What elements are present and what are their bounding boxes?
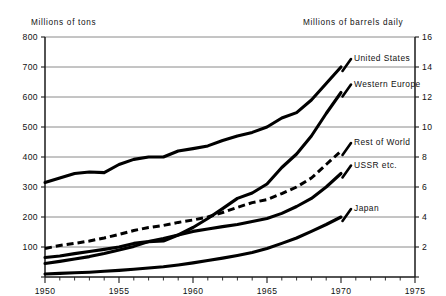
series-label-western-europe: Western Europe <box>354 79 421 89</box>
y-axis-right-tick-label: 10 <box>422 122 432 132</box>
y-axis-left-tick-label: 300 <box>22 182 38 192</box>
y-axis-left-tick-label: 600 <box>22 92 38 102</box>
x-axis-tick-label: 1955 <box>109 286 130 296</box>
y-axis-right-tick-label: 14 <box>422 62 432 72</box>
oil-consumption-line-chart: Millions of tons Millions of barrels dai… <box>0 0 446 296</box>
y-axis-right-tick-label: 6 <box>422 182 427 192</box>
y-axis-right-tick-label: 16 <box>422 32 432 42</box>
y-axis-left-tick-label: 100 <box>22 242 38 252</box>
series-label-ussr-etc: USSR etc. <box>354 160 397 170</box>
x-axis-tick-label: 1975 <box>405 286 426 296</box>
y-axis-left-tick-label: 500 <box>22 122 38 132</box>
x-axis-tick-label: 1970 <box>331 286 352 296</box>
chart-background <box>0 0 446 296</box>
series-label-rest-of-world: Rest of World <box>354 137 410 147</box>
y-axis-right-tick-label: 2 <box>422 242 427 252</box>
x-axis-tick-label: 1965 <box>257 286 278 296</box>
series-label-japan: Japan <box>354 203 379 213</box>
y-axis-left-tick-label: 200 <box>22 212 38 222</box>
y-axis-left-tick-label: 700 <box>22 62 38 72</box>
x-axis-tick-label: 1960 <box>183 286 204 296</box>
y-axis-right-tick-label: 12 <box>422 92 432 102</box>
y-axis-left-tick-label: 400 <box>22 152 38 162</box>
y-axis-right-tick-label: 4 <box>422 212 427 222</box>
y-axis-left-caption: Millions of tons <box>31 18 96 27</box>
y-axis-right-tick-label: 8 <box>422 152 427 162</box>
x-axis-tick-label: 1950 <box>35 286 56 296</box>
y-axis-left-tick-label: 800 <box>22 32 38 42</box>
series-label-united-states: United States <box>354 53 410 63</box>
y-axis-right-caption: Millions of barrels daily <box>303 18 404 27</box>
chart-container: Millions of tons Millions of barrels dai… <box>0 0 446 296</box>
